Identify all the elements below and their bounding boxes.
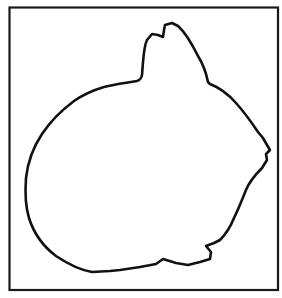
figure-svg	[0, 0, 282, 298]
rabbit-outline-icon	[25, 23, 270, 272]
figure-canvas: rabbit silhouette outline	[0, 0, 282, 298]
